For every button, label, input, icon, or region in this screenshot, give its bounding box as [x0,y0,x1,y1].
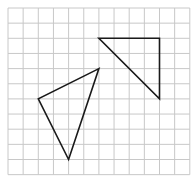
grid-lines [8,8,190,175]
grid-diagram [0,0,192,184]
